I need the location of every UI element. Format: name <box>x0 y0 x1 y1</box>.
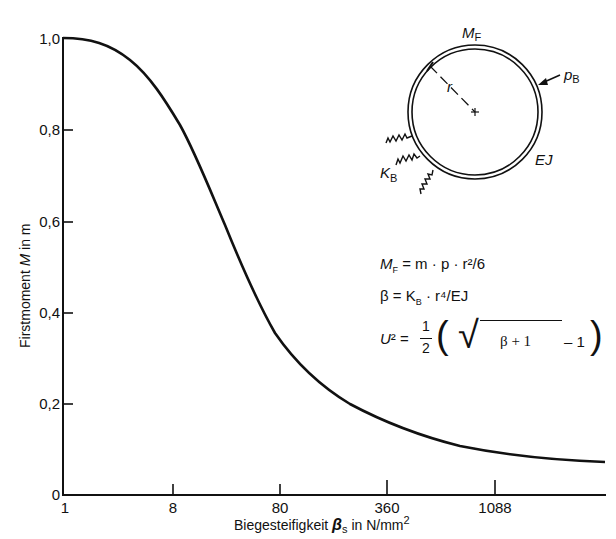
svg-text:0,2: 0,2 <box>39 395 60 412</box>
x-ticks <box>173 480 495 495</box>
data-curve <box>63 38 605 462</box>
svg-text:pB: pB <box>563 66 580 85</box>
ring-diagram: MF pB EJ KB r <box>380 24 580 194</box>
svg-text:0: 0 <box>52 486 60 503</box>
svg-text:KB: KB <box>380 164 397 184</box>
chart: 0 0,2 0,4 0,6 0,8 1,0 1 8 80 360 1088 Bi… <box>0 0 616 539</box>
y-tick-labels: 0 0,2 0,4 0,6 0,8 1,0 <box>39 30 60 503</box>
svg-text:1,0: 1,0 <box>39 30 60 47</box>
svg-text:0,4: 0,4 <box>39 304 60 321</box>
svg-text:0,6: 0,6 <box>39 213 60 230</box>
svg-text:1: 1 <box>61 499 69 516</box>
formula-moment: MF = m · p · r²/6 <box>380 255 485 275</box>
x-axis-title: Biegesteifigkeit βs in N/mm2 <box>234 514 410 535</box>
y-axis-title: Firstmoment M in m <box>16 223 33 348</box>
svg-text:0,8: 0,8 <box>39 121 60 138</box>
x-tick-labels: 1 8 80 360 1088 <box>61 499 512 516</box>
svg-text:8: 8 <box>169 499 177 516</box>
svg-text:360: 360 <box>374 499 399 516</box>
formula-beta: β = KB · r⁴/EJ <box>380 287 468 307</box>
svg-text:EJ: EJ <box>535 151 553 168</box>
svg-text:MF: MF <box>462 24 482 43</box>
svg-text:80: 80 <box>272 499 289 516</box>
svg-text:1088: 1088 <box>478 499 511 516</box>
svg-text:r: r <box>447 78 453 95</box>
y-ticks <box>63 38 73 404</box>
